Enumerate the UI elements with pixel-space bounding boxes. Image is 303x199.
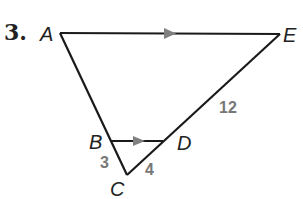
segment-EC	[127, 34, 280, 175]
vertex-label-C: C	[110, 178, 125, 199]
problem-number: 3.	[4, 19, 27, 45]
measure-CD: 4	[145, 161, 154, 178]
parallel-arrow-icon-AE	[164, 28, 176, 39]
vertex-label-A: A	[39, 23, 53, 45]
vertex-label-D: D	[177, 132, 191, 154]
measure-BC: 3	[100, 154, 109, 171]
parallel-arrow-icon-BD	[133, 136, 145, 146]
vertex-label-B: B	[89, 131, 102, 153]
vertex-label-E: E	[283, 24, 297, 46]
measure-DE: 12	[219, 99, 237, 116]
segment-AC	[60, 33, 127, 175]
triangle-diagram: 3. A E B D C 3 4 12	[0, 0, 303, 199]
